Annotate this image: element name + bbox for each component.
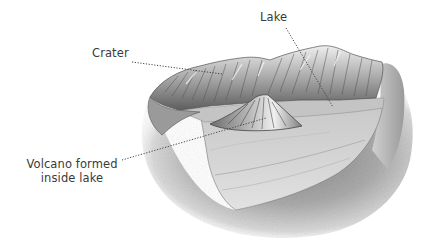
volcano-label: Volcano formed inside lake bbox=[24, 157, 120, 185]
caldera-diagram: Crater Lake Volcano formed inside lake bbox=[0, 0, 435, 247]
caldera-illustration bbox=[0, 0, 435, 247]
lake-label: Lake bbox=[260, 10, 287, 24]
volcano-label-line-1: Volcano formed bbox=[24, 157, 120, 171]
volcano-label-line-2: inside lake bbox=[24, 171, 120, 185]
crater-label: Crater bbox=[92, 46, 129, 60]
